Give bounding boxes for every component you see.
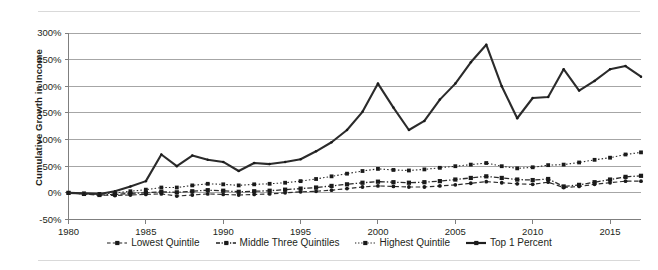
series-marker: [469, 176, 473, 180]
series-marker: [593, 158, 597, 162]
y-tick-label: 100%: [37, 134, 62, 145]
series-marker: [408, 129, 411, 132]
series-marker: [207, 159, 210, 162]
chart-svg: 300%250%200%150%100%50%0%-50%19801985199…: [0, 0, 658, 270]
series-marker: [377, 82, 380, 85]
series-marker: [129, 185, 132, 188]
series-marker: [191, 154, 194, 157]
series-marker: [453, 177, 457, 181]
series-marker: [237, 190, 241, 194]
series-marker: [253, 162, 256, 165]
series-marker: [345, 182, 349, 186]
y-tick-label: 150%: [37, 107, 62, 118]
series-marker: [175, 186, 179, 190]
series-marker: [577, 161, 581, 165]
legend-label: Top 1 Percent: [490, 238, 552, 248]
x-tick-label: 1985: [135, 226, 156, 237]
series-marker: [159, 186, 163, 190]
chart-figure: Cumulative Growth in Income 300%250%200%…: [0, 0, 658, 270]
legend-item[interactable]: Lowest Quintile: [106, 238, 199, 248]
series-marker: [470, 61, 473, 64]
series-marker: [516, 117, 519, 120]
series-marker: [624, 65, 627, 68]
series-marker: [592, 180, 596, 184]
series-marker: [221, 193, 225, 197]
series-marker: [128, 189, 132, 193]
series-marker: [329, 184, 333, 188]
series-marker: [469, 163, 473, 167]
series-marker: [67, 192, 70, 195]
series-marker: [345, 187, 349, 191]
x-tick-label: 1980: [58, 226, 79, 237]
x-tick-label: 1995: [290, 226, 311, 237]
series-marker: [500, 176, 504, 180]
series-marker: [330, 141, 333, 144]
y-tick-label: 0%: [48, 187, 62, 198]
series-marker: [376, 167, 380, 171]
series-marker: [190, 189, 194, 193]
series-marker: [283, 188, 287, 192]
series-marker: [190, 193, 194, 197]
series-marker: [237, 184, 241, 188]
series-marker: [639, 179, 643, 183]
series-marker: [515, 166, 519, 170]
series-marker: [315, 150, 318, 153]
series-marker: [500, 164, 504, 168]
series-marker: [453, 164, 457, 168]
series-marker: [531, 182, 535, 186]
series-marker: [268, 189, 272, 193]
series-marker: [361, 185, 365, 189]
series-marker: [624, 153, 628, 157]
series-marker: [484, 161, 488, 165]
series-line: [69, 45, 642, 194]
series-marker: [485, 43, 488, 46]
series-marker: [221, 189, 225, 193]
series-marker: [593, 80, 596, 83]
series-marker: [422, 180, 426, 184]
series-marker: [391, 180, 395, 184]
series-marker: [562, 184, 566, 188]
series-marker: [299, 158, 302, 161]
series-marker: [407, 185, 411, 189]
series-marker: [346, 129, 349, 132]
legend-label: Lowest Quintile: [131, 238, 199, 248]
series-marker: [407, 169, 411, 173]
series-marker: [515, 182, 519, 186]
series-marker: [345, 172, 349, 176]
series-marker: [190, 184, 194, 188]
series-marker: [83, 192, 86, 195]
y-tick-label: 250%: [37, 54, 62, 65]
series-marker: [422, 185, 426, 189]
series-marker: [515, 177, 519, 181]
series-marker: [547, 96, 550, 99]
x-tick-label: 2005: [445, 226, 466, 237]
y-tick-label: 300%: [37, 27, 62, 38]
series-marker: [624, 179, 628, 183]
series-marker: [144, 188, 148, 192]
series-marker: [577, 183, 581, 187]
series-marker: [314, 185, 318, 189]
series-marker: [145, 180, 148, 183]
chart-legend: Lowest QuintileMiddle Three QuintilesHig…: [0, 238, 658, 248]
series-marker: [284, 161, 287, 164]
series-marker: [330, 188, 334, 192]
series-marker: [98, 193, 101, 196]
series-marker: [283, 181, 287, 185]
series-marker: [438, 184, 442, 188]
series-marker: [531, 178, 535, 182]
series-marker: [114, 190, 117, 193]
series-marker: [500, 85, 503, 88]
series-marker: [639, 150, 643, 154]
series-marker: [608, 177, 612, 181]
legend-item[interactable]: Highest Quintile: [354, 238, 450, 248]
series-marker: [268, 163, 271, 166]
series-marker: [392, 185, 396, 189]
legend-item[interactable]: Middle Three Quintiles: [215, 238, 340, 248]
series-marker: [453, 183, 457, 187]
series-marker: [222, 161, 225, 164]
legend-item[interactable]: Top 1 Percent: [465, 238, 552, 248]
series-marker: [439, 98, 442, 101]
series-marker: [361, 169, 365, 173]
series-marker: [330, 174, 334, 178]
series-marker: [531, 97, 534, 100]
